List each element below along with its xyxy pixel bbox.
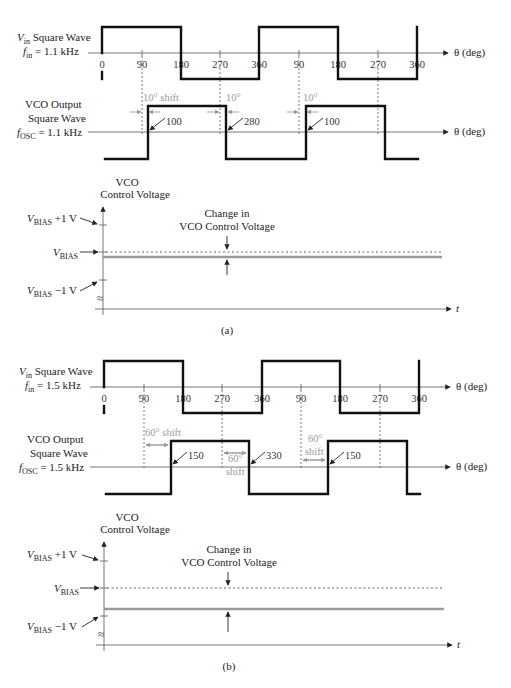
edge-label-150: 150 xyxy=(188,450,204,461)
shift-label-1-b: 60° shift xyxy=(145,427,181,438)
vco-square-wave-b xyxy=(106,441,420,494)
change-label-2: VCO Control Voltage xyxy=(179,220,275,232)
shift-label-1: 10° shift xyxy=(143,92,179,103)
vin-label-b: Vin Square Wave xyxy=(19,365,93,380)
ctrl-title-1: VCO xyxy=(115,176,138,188)
shift-label-3b-b: shift xyxy=(305,446,324,457)
change-label-1-b: Change in xyxy=(207,543,252,555)
vco-label-1: VCO Output xyxy=(25,98,82,110)
caption-b: (b) xyxy=(223,660,236,673)
vin-theta-label-b: θ (deg) xyxy=(456,380,488,393)
vin-freq-label: fin = 1.1 kHz xyxy=(23,45,79,60)
ctrl-title-2-b: Control Voltage xyxy=(100,523,170,535)
vbias-plus-label-b: VBIAS +1 V xyxy=(27,548,77,563)
vco-theta-label-b: θ (deg) xyxy=(456,460,488,473)
vco-label-2: Square Wave xyxy=(28,112,86,124)
change-label-2-b: VCO Control Voltage xyxy=(181,556,277,568)
ctrl-title-2: Control Voltage xyxy=(100,188,170,200)
axis-break-icon: ≈ xyxy=(97,292,103,304)
shift-label-2: 10° xyxy=(226,92,241,103)
edge-label-280: 280 xyxy=(244,116,260,127)
axis-break-icon-b: ≈ xyxy=(98,628,104,640)
svg-text:0: 0 xyxy=(101,393,106,404)
vbias-minus-label: VBIAS −1 V xyxy=(27,284,77,299)
figure-b: Vin Square Wave fin = 1.5 kHz θ (deg) 0 … xyxy=(19,361,488,673)
edge-label-150b: 150 xyxy=(345,450,361,461)
edge-label-100: 100 xyxy=(166,116,182,127)
caption-a: (a) xyxy=(221,324,234,337)
vco-label-1-b: VCO Output xyxy=(27,433,84,445)
ctrl-t-label-b: t xyxy=(457,638,461,650)
vco-freq-label-b: fOSC = 1.5 kHz xyxy=(19,461,84,476)
edge-label-330: 330 xyxy=(266,450,282,461)
ctrl-t-label: t xyxy=(456,302,460,314)
vco-theta-label: θ (deg) xyxy=(454,125,486,138)
vbias-label: VBIAS xyxy=(53,246,78,261)
shift-label-3: 10° xyxy=(303,92,318,103)
vin-theta-label: θ (deg) xyxy=(454,46,486,59)
figure-a: Vin Square Wave fin = 1.1 kHz θ (deg) 0 … xyxy=(17,27,486,337)
ctrl-title-1-b: VCO xyxy=(115,511,138,523)
vco-label-2-b: Square Wave xyxy=(30,447,88,459)
vco-freq-label: fOSC = 1.1 kHz xyxy=(17,126,82,141)
vin-freq-label-b: fin = 1.5 kHz xyxy=(25,379,81,394)
vbias-minus-label-b: VBIAS −1 V xyxy=(27,620,77,635)
shift-label-3a-b: 60° xyxy=(308,433,323,444)
vco-phase-diagram: Vin Square Wave fin = 1.1 kHz θ (deg) 0 … xyxy=(0,0,511,688)
shift-label-2a-b: 60° xyxy=(228,453,243,464)
shift-label-2b-b: shift xyxy=(226,466,245,477)
edge-label-100b: 100 xyxy=(324,116,340,127)
change-label-1: Change in xyxy=(205,207,250,219)
svg-text:0: 0 xyxy=(99,59,104,70)
vco-square-wave xyxy=(105,106,418,159)
vbias-plus-label: VBIAS +1 V xyxy=(27,212,77,227)
vin-label: Vin Square Wave xyxy=(17,31,91,46)
vbias-label-b: VBIAS xyxy=(54,582,79,597)
